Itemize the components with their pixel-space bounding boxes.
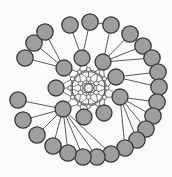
hub-node-g8 <box>55 101 71 117</box>
outer-node-n6 <box>103 17 119 33</box>
outer-node-n24 <box>10 92 26 108</box>
outer-node-n11 <box>151 79 167 95</box>
core-node-b9 <box>68 86 72 90</box>
core-node-b6 <box>86 104 90 108</box>
hub-node-g5 <box>112 89 128 105</box>
hub-node-g9 <box>48 80 64 96</box>
hub-node-g7 <box>76 109 92 125</box>
core-node-a3 <box>86 95 91 100</box>
core-node-b8 <box>70 95 74 99</box>
graph-figure <box>0 0 172 177</box>
hub-node-g4 <box>108 69 124 85</box>
outer-node-n1 <box>17 50 33 66</box>
core-node-b11 <box>77 70 81 74</box>
core-node-a5 <box>78 81 83 86</box>
hub-node-g6 <box>96 105 112 121</box>
core-node-b3 <box>105 86 109 90</box>
core-node-a0 <box>86 77 91 82</box>
hub-node-g2 <box>74 50 90 66</box>
core-node-b4 <box>102 95 106 99</box>
core-node-a4 <box>78 90 83 95</box>
core-node-a2 <box>94 90 99 95</box>
core-node-b1 <box>96 70 100 74</box>
core-node-b5 <box>96 102 100 106</box>
outer-node-n10 <box>150 64 166 80</box>
outer-node-n3 <box>37 24 53 40</box>
hub-node-g1 <box>56 60 72 76</box>
outer-node-n23 <box>15 112 31 128</box>
core-node-b0 <box>86 67 90 71</box>
outer-node-n21 <box>45 138 61 154</box>
outer-node-n19 <box>75 149 91 165</box>
graph-canvas <box>0 0 172 177</box>
outer-node-n20 <box>60 145 76 161</box>
core-node-b7 <box>77 102 81 106</box>
core-node-c0 <box>85 84 93 92</box>
outer-node-n4 <box>62 17 78 33</box>
hub-node-g3 <box>95 54 111 70</box>
core-node-a1 <box>94 81 99 86</box>
core-node-b2 <box>102 77 106 81</box>
outer-node-n7 <box>122 26 138 42</box>
outer-node-n5 <box>82 14 98 30</box>
core-node-b10 <box>70 77 74 81</box>
outer-node-n22 <box>29 127 45 143</box>
